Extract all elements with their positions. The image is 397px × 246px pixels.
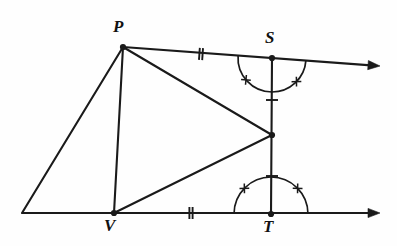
vertex-dot-M <box>269 132 275 138</box>
vertex-dots-group <box>111 44 275 217</box>
vertex-label-S: S <box>265 29 274 46</box>
geometry-canvas <box>0 0 397 246</box>
vertex-dot-P <box>120 44 126 50</box>
ray-P-through-S-arrowhead <box>368 61 380 70</box>
tick-PS-double-bar-2 <box>202 48 203 60</box>
vertex-label-P: P <box>113 18 123 35</box>
vertex-label-T: T <box>263 218 273 235</box>
segment-P-M <box>123 47 272 135</box>
segment-L-P <box>22 47 123 213</box>
arc-angle-VTS-left <box>234 177 271 214</box>
segment-P-V <box>114 47 123 213</box>
ray-P-through-S <box>123 47 371 65</box>
rays-group <box>22 47 380 218</box>
vertex-label-V: V <box>104 217 115 234</box>
tick-marks-group <box>189 48 278 219</box>
arc-angle-MST-right <box>272 60 306 92</box>
arc-angle-PST-left <box>238 56 272 92</box>
vertex-dot-S <box>269 55 275 61</box>
tick-PS-double-bar-1 <box>199 48 200 60</box>
geometry-figure: PSTV <box>0 0 397 246</box>
segments-group <box>22 47 272 214</box>
arc-angle-PST-left-tick-b <box>246 75 247 85</box>
arc-angle-STR-right <box>271 177 308 214</box>
segment-V-M <box>114 135 272 213</box>
ray-L-through-T-arrowhead <box>368 208 380 217</box>
